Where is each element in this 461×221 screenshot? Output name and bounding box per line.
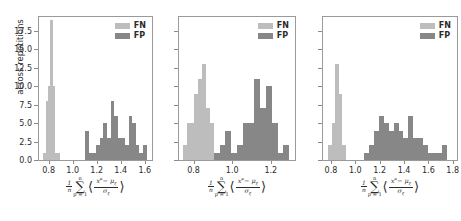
y-tick-label: 2.5 [19,137,32,146]
y-tick-mark [318,142,322,143]
y-tick-label: 5.0 [19,119,32,128]
y-tick-label: 10.0 [14,82,32,91]
x-tick-mark [380,161,381,164]
y-tick-label: 7.5 [19,100,32,109]
x-tick-mark [49,161,50,164]
x-tick-label: 1.0 [349,166,362,175]
y-tick-mark [318,160,322,161]
y-tick-mark [318,86,322,87]
y-tick-mark [318,123,322,124]
y-tick-mark [318,68,322,69]
x-tick-mark [404,161,405,164]
legend-swatch-fn-icon [115,23,130,29]
legend-label-fp: FP [277,32,288,40]
x-tick-mark [97,161,98,164]
y-tick-mark [34,105,38,106]
x-tick-mark [73,161,74,164]
y-tick-label: 17.5 [14,27,32,36]
y-tick-mark [34,68,38,69]
x-tick-label: 0.8 [42,166,55,175]
histogram-bar-fp [283,145,289,160]
plot-area-3: FNFP [322,16,458,161]
x-tick-label: 0.8 [187,166,200,175]
legend-item-fp[interactable]: FP [115,32,146,40]
legend-item-fn[interactable]: FN [420,22,451,30]
x-axis-math-expression: 1nn∑p = 1⟨xμ− μξσξ⟩ [208,176,266,197]
x-tick-label: 1.2 [373,166,386,175]
chart-panel-1: FNFP0.02.55.07.510.012.515.017.50.81.01.… [38,16,153,161]
legend-label-fn: FN [134,22,146,30]
y-tick-mark [34,31,38,32]
legend-label-fp: FP [439,32,450,40]
y-tick-mark [174,105,178,106]
y-tick-mark [174,160,178,161]
legend-swatch-fp-icon [258,33,273,39]
y-axis-label: across repetitions [15,7,25,107]
plot-area-2: FNFP [178,16,296,161]
x-tick-label: 1.6 [138,166,151,175]
y-tick-label: 15.0 [14,45,32,54]
x-axis-math-expression: 1nn∑p = 1⟨xμ− μξσξ⟩ [361,176,419,197]
plot-area-1: FNFP [38,16,153,161]
y-tick-mark [34,160,38,161]
x-axis-label-1: 1nn∑p = 1⟨xμ− μξσξ⟩ [38,176,153,197]
histogram-bar-fp [442,145,447,160]
legend-swatch-fp-icon [420,33,435,39]
histogram-bar-fn [53,86,55,160]
y-tick-mark [174,86,178,87]
legend-swatch-fn-icon [420,23,435,29]
x-tick-mark [194,161,195,164]
x-tick-mark [271,161,272,164]
x-axis-label-2: 1nn∑p = 1⟨xμ− μξσξ⟩ [178,176,296,197]
x-tick-label: 0.8 [325,166,338,175]
x-tick-mark [145,161,146,164]
x-tick-label: 1.0 [66,166,79,175]
y-tick-mark [34,142,38,143]
y-tick-mark [34,123,38,124]
y-tick-label: 12.5 [14,63,32,72]
histogram-bar-fp [143,145,147,160]
legend-3: FNFP [417,20,454,42]
y-tick-mark [174,142,178,143]
x-tick-label: 1.6 [422,166,435,175]
y-tick-mark [318,49,322,50]
x-tick-mark [453,161,454,164]
x-tick-label: 1.4 [114,166,127,175]
legend-item-fp[interactable]: FP [258,32,289,40]
x-tick-label: 1.4 [398,166,411,175]
legend-swatch-fp-icon [115,33,130,39]
legend-item-fn[interactable]: FN [258,22,289,30]
x-tick-mark [428,161,429,164]
y-tick-mark [34,49,38,50]
x-axis-math-expression: 1nn∑p = 1⟨xμ− μξσξ⟩ [66,176,124,197]
y-tick-mark [174,123,178,124]
x-tick-label: 1.2 [90,166,103,175]
legend-2: FNFP [255,20,292,42]
legend-item-fp[interactable]: FP [420,32,451,40]
histogram-bar-fn [58,153,60,160]
legend-label-fn: FN [439,22,451,30]
x-tick-mark [331,161,332,164]
x-tick-label: 1.2 [264,166,277,175]
y-tick-mark [318,105,322,106]
legend-label-fn: FN [277,22,289,30]
legend-item-fn[interactable]: FN [115,22,146,30]
y-tick-mark [174,68,178,69]
chart-panel-3: FNFP0.81.01.21.41.61.8 [322,16,458,161]
x-tick-label: 1.0 [226,166,239,175]
figure-histogram-panels: across repetitions FNFP0.02.55.07.510.01… [0,0,461,221]
x-tick-mark [232,161,233,164]
y-tick-mark [174,49,178,50]
chart-panel-2: FNFP0.81.01.2 [178,16,296,161]
legend-1: FNFP [112,20,149,42]
x-tick-mark [355,161,356,164]
x-tick-label: 1.8 [446,166,459,175]
legend-label-fp: FP [134,32,145,40]
y-tick-label: 0.0 [19,156,32,165]
histogram-bar-fp [428,153,443,160]
histogram-bar-fn [342,145,346,160]
y-tick-mark [174,31,178,32]
legend-swatch-fn-icon [258,23,273,29]
y-tick-mark [34,86,38,87]
x-axis-label-3: 1nn∑p = 1⟨xμ− μξσξ⟩ [322,176,458,197]
